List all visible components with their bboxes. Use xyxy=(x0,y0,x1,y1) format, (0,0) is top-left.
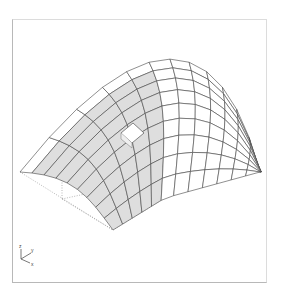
mesh-cell[interactable] xyxy=(179,118,195,135)
mesh-cell[interactable] xyxy=(205,153,221,170)
mesh-cell[interactable] xyxy=(176,152,193,174)
mesh-cell[interactable] xyxy=(178,135,195,154)
mesh-cell[interactable] xyxy=(217,169,233,184)
y-axis-label: y xyxy=(31,247,34,253)
mesh-cell[interactable] xyxy=(179,103,195,119)
z-axis-label: z xyxy=(19,243,22,249)
x-axis-line xyxy=(21,259,30,263)
mesh-cell[interactable] xyxy=(193,135,209,153)
surface-canvas[interactable]: z y x xyxy=(0,0,283,291)
surface-mesh[interactable] xyxy=(20,59,261,230)
mesh-cell[interactable] xyxy=(178,90,196,105)
axis-triad: z y x xyxy=(19,243,34,267)
mesh-cell[interactable] xyxy=(231,169,247,180)
mesh-cell[interactable] xyxy=(161,174,176,200)
y-axis-line xyxy=(21,253,31,259)
mesh-cell[interactable] xyxy=(202,169,219,188)
mesh-cell[interactable] xyxy=(190,152,207,171)
mesh-cell[interactable] xyxy=(188,170,205,192)
x-axis-label: x xyxy=(31,261,34,267)
